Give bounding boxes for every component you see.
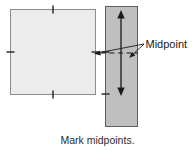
midpoint-label: Midpoint [146, 38, 188, 50]
figure-caption: Mark midpoints. [60, 134, 134, 146]
midpoints-diagram: Midpoint Mark midpoints. [0, 0, 195, 151]
light-square-shape [11, 10, 96, 95]
figure-container: Midpoint Mark midpoints. [0, 0, 195, 151]
